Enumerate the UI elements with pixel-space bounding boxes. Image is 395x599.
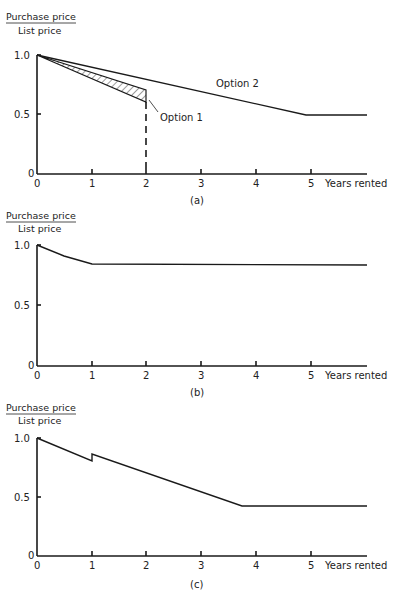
y-label-numerator: Purchase price bbox=[6, 11, 76, 22]
x-tick-4: 4 bbox=[253, 178, 259, 189]
x-tick-0: 0 bbox=[34, 370, 40, 381]
x-tick-1: 1 bbox=[89, 178, 95, 189]
x-tick-3: 3 bbox=[198, 560, 204, 571]
y-label-denominator: List price bbox=[18, 223, 61, 234]
y-label-numerator: Purchase price bbox=[6, 210, 76, 221]
panel-label-a: (a) bbox=[190, 195, 204, 206]
x-tick-5: 5 bbox=[308, 560, 314, 571]
panel-label-b: (b) bbox=[190, 387, 204, 398]
x-tick-2: 2 bbox=[143, 370, 149, 381]
x-tick-2: 2 bbox=[143, 560, 149, 571]
y-label-denominator: List price bbox=[18, 415, 61, 426]
y-label-denominator: List price bbox=[18, 25, 61, 36]
option-1-region bbox=[37, 55, 146, 102]
chart-b: Purchase price List price 1.0 0.5 0 0 1 … bbox=[6, 210, 387, 398]
y-tick-1.0: 1.0 bbox=[14, 433, 30, 444]
price-line bbox=[37, 438, 367, 506]
x-tick-5: 5 bbox=[308, 370, 314, 381]
x-tick-3: 3 bbox=[198, 178, 204, 189]
chart-a: Purchase price List price 1.0 0.5 0 0 1 … bbox=[6, 11, 387, 206]
price-line bbox=[37, 245, 367, 265]
x-tick-4: 4 bbox=[253, 370, 259, 381]
option-2-label: Option 2 bbox=[216, 78, 259, 89]
y-tick-0.5: 0.5 bbox=[14, 109, 30, 120]
y-tick-0.5: 0.5 bbox=[14, 300, 30, 311]
x-tick-5: 5 bbox=[308, 178, 314, 189]
x-tick-4: 4 bbox=[253, 560, 259, 571]
y-tick-1.0: 1.0 bbox=[14, 240, 30, 251]
y-tick-0.5: 0.5 bbox=[14, 492, 30, 503]
x-tick-1: 1 bbox=[89, 370, 95, 381]
x-axis-label: Years rented bbox=[324, 178, 387, 189]
panel-label-c: (c) bbox=[190, 579, 203, 590]
figure: Purchase price List price 1.0 0.5 0 0 1 … bbox=[0, 0, 395, 599]
chart-c: Purchase price List price 1.0 0.5 0 0 1 … bbox=[6, 402, 387, 590]
x-tick-0: 0 bbox=[34, 178, 40, 189]
y-tick-1.0: 1.0 bbox=[14, 50, 30, 61]
y-label-numerator: Purchase price bbox=[6, 402, 76, 413]
option-1-pointer bbox=[149, 100, 158, 112]
x-tick-1: 1 bbox=[89, 560, 95, 571]
x-tick-0: 0 bbox=[34, 560, 40, 571]
x-axis-label: Years rented bbox=[324, 370, 387, 381]
x-tick-3: 3 bbox=[198, 370, 204, 381]
x-tick-2: 2 bbox=[143, 178, 149, 189]
option-2-line bbox=[37, 55, 367, 115]
option-1-label: Option 1 bbox=[160, 112, 203, 123]
x-axis-label: Years rented bbox=[324, 560, 387, 571]
